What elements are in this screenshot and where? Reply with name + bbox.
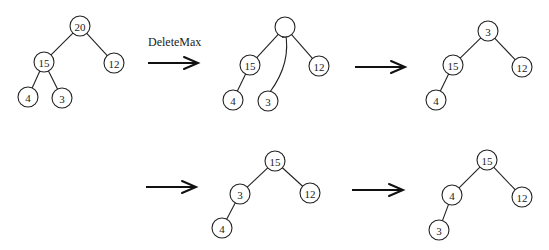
heap-node: 12 [309, 56, 329, 76]
tree-edge [257, 34, 278, 57]
heap-node: 15 [443, 55, 463, 75]
step-arrows-layer: DeleteMax [146, 35, 405, 196]
node-circle [275, 17, 295, 37]
operation-label: DeleteMax [148, 35, 201, 49]
tree-edge [32, 71, 40, 88]
node-label: 3 [436, 225, 442, 237]
tree-edge [459, 167, 480, 188]
heap-deletemax-diagram: 20151243151243315124153124154123 DeleteM… [0, 0, 549, 250]
tree-edge [442, 204, 448, 220]
heap-node: 15 [477, 150, 497, 170]
node-label: 15 [245, 60, 257, 72]
step-arrow [146, 181, 196, 193]
tree-edge [495, 38, 515, 59]
heap-node: 3 [478, 21, 498, 41]
tree-edge [292, 35, 313, 59]
node-label: 4 [219, 223, 225, 235]
step-arrow [355, 61, 405, 73]
heap-node: 4 [426, 90, 446, 110]
heap-node: 12 [104, 53, 124, 73]
heap-node: 12 [512, 57, 532, 77]
node-label: 3 [265, 96, 271, 108]
heap-node: 4 [223, 90, 243, 110]
tree-edge [87, 33, 107, 55]
heap-node: 4 [442, 185, 462, 205]
tree-edge [237, 74, 245, 91]
tree-edge [494, 167, 515, 189]
heap-node: 3 [52, 88, 72, 108]
tree-edge [460, 38, 481, 58]
node-label: 4 [25, 92, 31, 104]
tree-edge [282, 168, 302, 187]
node-label: 12 [305, 188, 316, 200]
node-label: 15 [39, 57, 51, 69]
tree-edge [51, 33, 73, 55]
heap-node: 4 [18, 87, 38, 107]
heap-node: 20 [70, 16, 90, 36]
node-label: 3 [59, 93, 65, 105]
heap-node: 15 [34, 52, 54, 72]
node-label: 12 [517, 192, 528, 204]
nodes-layer: 20151243151243315124153124154123 [18, 16, 532, 240]
node-label: 12 [109, 58, 120, 70]
heap-node: 12 [300, 183, 320, 203]
tree-edge [227, 203, 236, 219]
node-label: 15 [270, 156, 282, 168]
node-label: 20 [75, 21, 87, 33]
tree-edge [247, 168, 267, 187]
heap-node: 3 [230, 184, 250, 204]
heap-node: 15 [240, 55, 260, 75]
step-arrow: DeleteMax [148, 35, 201, 69]
node-label: 15 [482, 155, 494, 167]
heap-node: 15 [265, 151, 285, 171]
tree-edge [440, 74, 448, 91]
heap-node: 12 [512, 187, 532, 207]
node-label: 3 [237, 189, 243, 201]
step-arrow [352, 184, 403, 196]
move-arrow-layer [270, 29, 289, 92]
tree-edge [48, 71, 57, 89]
heap-node: 4 [212, 218, 232, 238]
heap-node: 3 [429, 220, 449, 240]
node-label: 4 [230, 95, 236, 107]
node-label: 3 [485, 26, 491, 38]
node-label: 4 [449, 190, 455, 202]
node-label: 15 [448, 60, 460, 72]
node-label: 4 [433, 95, 439, 107]
heap-node [275, 17, 295, 37]
heap-node: 3 [258, 91, 278, 111]
node-label: 12 [517, 62, 528, 74]
node-label: 12 [314, 61, 325, 73]
